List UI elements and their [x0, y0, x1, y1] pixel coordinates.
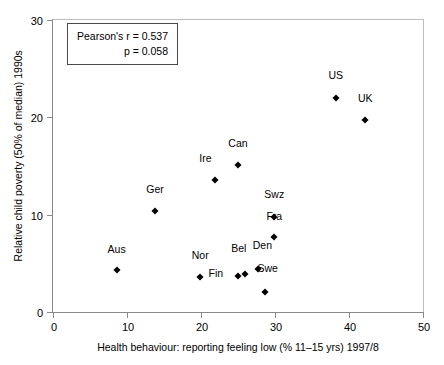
data-point-label-ger: Ger — [146, 184, 164, 195]
y-axis-tick: 10 — [47, 215, 53, 216]
x-axis-title: Health behaviour: reporting feeling low … — [52, 342, 424, 354]
data-point-label-fra: Fra — [266, 210, 282, 221]
statistics-annotation-box: Pearson's r = 0.537 p = 0.058 — [67, 23, 178, 65]
data-point-can — [234, 161, 241, 168]
x-axis-tick: 10 — [127, 312, 128, 318]
data-point-uk — [362, 117, 369, 124]
data-point-label-uk: UK — [358, 92, 373, 103]
y-axis-tick: 20 — [47, 117, 53, 118]
scatter-plot-figure: 010203001020304050AusGerNorIreFinCanBelD… — [0, 0, 444, 365]
y-axis-tick: 30 — [47, 20, 53, 21]
data-point-label-nor: Nor — [192, 250, 209, 261]
data-point-ire — [212, 176, 219, 183]
data-point-aus — [113, 267, 120, 274]
data-point-bel — [241, 270, 248, 277]
data-point-swe — [261, 288, 268, 295]
data-point-ger — [152, 207, 159, 214]
x-axis-tick-label: 20 — [196, 322, 208, 333]
x-axis-tick-label: 30 — [270, 322, 282, 333]
x-axis-tick-label: 50 — [418, 322, 430, 333]
x-axis-tick: 20 — [201, 312, 202, 318]
data-point-label-ire: Ire — [199, 153, 211, 164]
data-point-nor — [197, 273, 204, 280]
y-axis-tick-label: 10 — [31, 210, 43, 221]
y-axis-tick-label: 30 — [31, 16, 43, 27]
data-point-label-us: US — [328, 70, 343, 81]
x-axis-tick-label: 0 — [51, 322, 57, 333]
data-point-label-aus: Aus — [108, 243, 126, 254]
x-axis-tick: 30 — [275, 312, 276, 318]
p-value-text: p = 0.058 — [77, 44, 168, 59]
y-axis-tick-label: 0 — [37, 308, 43, 319]
data-point-label-can: Can — [228, 137, 247, 148]
data-point-label-fin: Fin — [209, 267, 224, 278]
data-point-label-swe: Swe — [257, 263, 277, 274]
data-point-label-swz: Swz — [264, 189, 284, 200]
pearson-r-text: Pearson's r = 0.537 — [77, 29, 168, 44]
data-point-label-bel: Bel — [231, 242, 246, 253]
data-point-us — [332, 94, 339, 101]
x-axis-tick: 50 — [423, 312, 424, 318]
x-axis-tick: 40 — [349, 312, 350, 318]
y-axis-tick-label: 20 — [31, 113, 43, 124]
y-axis-title: Relative child poverty (50% of median) 1… — [13, 6, 25, 306]
x-axis-tick-label: 10 — [122, 322, 134, 333]
x-axis-tick-label: 40 — [344, 322, 356, 333]
x-axis-tick: 0 — [53, 312, 54, 318]
data-point-label-den: Den — [253, 239, 272, 250]
